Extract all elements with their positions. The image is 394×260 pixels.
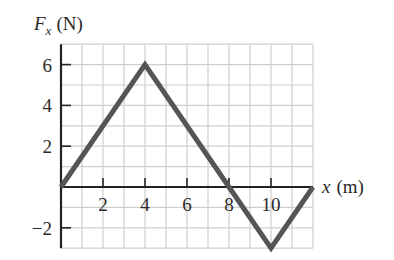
- y-tick-label: −2: [32, 218, 52, 239]
- grid-lines: [61, 44, 313, 248]
- x-tick-label: 4: [140, 194, 150, 215]
- x-tick-label: 10: [262, 194, 281, 215]
- x-axis-label: x(m): [321, 176, 364, 198]
- x-tick-label: 6: [182, 194, 192, 215]
- x-tick-label: 8: [224, 194, 234, 215]
- y-tick-label: 6: [43, 55, 53, 76]
- y-tick-label: 4: [43, 95, 53, 116]
- y-tick-label: 2: [43, 136, 53, 157]
- y-axis-label: Fx(N): [33, 13, 83, 38]
- force-position-chart: 246810642−2 Fx(N) x(m): [0, 0, 394, 260]
- x-tick-label: 2: [98, 194, 108, 215]
